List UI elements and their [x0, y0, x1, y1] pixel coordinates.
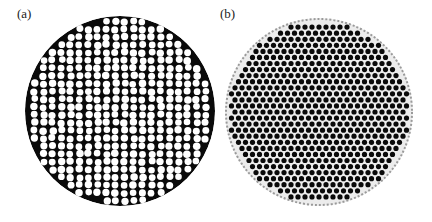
panel-a-lattice-image — [0, 0, 216, 222]
panel-b-lattice-image — [216, 0, 432, 222]
